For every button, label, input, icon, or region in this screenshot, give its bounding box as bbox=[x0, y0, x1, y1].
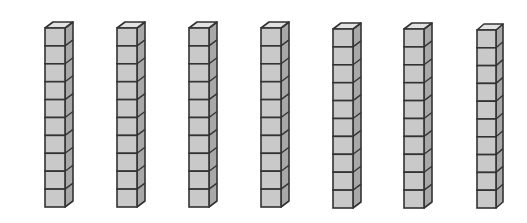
unit-cube bbox=[261, 82, 281, 100]
unit-cube bbox=[117, 82, 137, 100]
unit-cube bbox=[117, 171, 137, 189]
unit-cube bbox=[477, 172, 496, 190]
unit-cube bbox=[404, 190, 424, 208]
unit-cube bbox=[333, 136, 353, 154]
unit-cube bbox=[261, 171, 281, 189]
unit-cube bbox=[261, 46, 281, 64]
unit-cube bbox=[333, 47, 353, 65]
unit-cube bbox=[477, 66, 496, 84]
unit-cube bbox=[189, 82, 209, 100]
unit-cube bbox=[404, 172, 424, 190]
unit-cube bbox=[117, 118, 137, 136]
unit-cube bbox=[477, 155, 496, 173]
unit-cube bbox=[404, 29, 424, 47]
unit-cube bbox=[477, 119, 496, 137]
unit-cube bbox=[45, 46, 65, 64]
unit-cube bbox=[404, 136, 424, 154]
unit-cube bbox=[189, 135, 209, 153]
unit-cube bbox=[333, 190, 353, 208]
unit-cube bbox=[45, 153, 65, 171]
unit-cube bbox=[261, 189, 281, 207]
unit-cube bbox=[477, 83, 496, 101]
unit-cube bbox=[45, 118, 65, 136]
unit-cube bbox=[261, 28, 281, 46]
unit-cube bbox=[117, 189, 137, 207]
unit-cube bbox=[261, 135, 281, 153]
unit-cube bbox=[117, 100, 137, 118]
ten-rod bbox=[477, 24, 503, 208]
unit-cube bbox=[333, 65, 353, 83]
ten-rod bbox=[117, 22, 145, 207]
unit-cube bbox=[45, 64, 65, 82]
unit-cube bbox=[189, 189, 209, 207]
unit-cube bbox=[404, 65, 424, 83]
unit-cube bbox=[404, 119, 424, 137]
unit-cube bbox=[333, 154, 353, 172]
unit-cube bbox=[477, 101, 496, 119]
unit-cube bbox=[189, 46, 209, 64]
unit-cube bbox=[261, 64, 281, 82]
unit-cube bbox=[261, 118, 281, 136]
unit-cube bbox=[189, 64, 209, 82]
ten-rod bbox=[45, 22, 73, 207]
unit-cube bbox=[117, 46, 137, 64]
ten-rod bbox=[404, 23, 432, 208]
unit-cube bbox=[45, 82, 65, 100]
ten-rod bbox=[261, 22, 289, 207]
unit-cube bbox=[117, 153, 137, 171]
unit-cube bbox=[404, 47, 424, 65]
unit-cube bbox=[333, 101, 353, 119]
unit-cube bbox=[404, 83, 424, 101]
unit-cube bbox=[477, 30, 496, 48]
unit-cube bbox=[45, 28, 65, 46]
unit-cube bbox=[261, 153, 281, 171]
ten-rod bbox=[189, 22, 217, 207]
unit-cube bbox=[477, 190, 496, 208]
unit-cube bbox=[189, 171, 209, 189]
unit-cube bbox=[45, 135, 65, 153]
unit-cube bbox=[477, 48, 496, 66]
unit-cube bbox=[333, 83, 353, 101]
unit-cube bbox=[333, 172, 353, 190]
unit-cube bbox=[45, 100, 65, 118]
unit-cube bbox=[189, 100, 209, 118]
unit-cube bbox=[117, 28, 137, 46]
unit-cube bbox=[45, 171, 65, 189]
unit-cube bbox=[189, 28, 209, 46]
ten-rod bbox=[333, 23, 361, 208]
unit-cube bbox=[404, 101, 424, 119]
unit-cube bbox=[189, 118, 209, 136]
unit-cube bbox=[477, 137, 496, 155]
unit-cube bbox=[333, 29, 353, 47]
unit-cube bbox=[189, 153, 209, 171]
unit-cube bbox=[117, 64, 137, 82]
base-ten-rods-diagram bbox=[0, 0, 527, 223]
unit-cube bbox=[45, 189, 65, 207]
unit-cube bbox=[117, 135, 137, 153]
unit-cube bbox=[404, 154, 424, 172]
unit-cube bbox=[333, 119, 353, 137]
unit-cube bbox=[261, 100, 281, 118]
